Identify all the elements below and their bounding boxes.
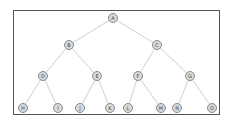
tree-node-k: K xyxy=(105,103,115,113)
tree-node-f: F xyxy=(133,71,143,81)
node-label: A xyxy=(111,16,114,21)
tree-node-l: L xyxy=(123,103,133,113)
diagram-frame xyxy=(13,10,220,115)
tree-node-c: C xyxy=(152,40,162,50)
node-label: O xyxy=(210,106,214,111)
node-label: M xyxy=(159,106,163,111)
node-label: H xyxy=(21,106,25,111)
tree-node-i: I xyxy=(53,103,63,113)
node-label: C xyxy=(155,43,159,48)
node-label: D xyxy=(41,74,45,79)
node-label: K xyxy=(108,106,111,111)
tree-node-m: M xyxy=(156,103,166,113)
node-label: L xyxy=(127,106,130,111)
node-label: F xyxy=(137,74,140,79)
node-label: N xyxy=(175,106,179,111)
tree-node-e: E xyxy=(92,71,102,81)
node-label: J xyxy=(79,106,80,111)
tree-node-b: B xyxy=(64,40,74,50)
tree-node-h: H xyxy=(18,103,28,113)
tree-node-n: N xyxy=(172,103,182,113)
node-label: E xyxy=(95,74,98,79)
node-label: G xyxy=(188,74,192,79)
node-label: I xyxy=(57,106,58,111)
tree-node-a: A xyxy=(108,13,118,23)
tree-node-j: J xyxy=(75,103,85,113)
tree-node-o: O xyxy=(207,103,217,113)
tree-node-d: D xyxy=(38,71,48,81)
tree-node-g: G xyxy=(185,71,195,81)
node-label: B xyxy=(67,43,70,48)
